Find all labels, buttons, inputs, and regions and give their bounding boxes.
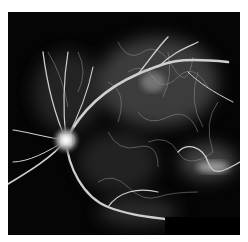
retina-vessels-graphic [8, 12, 240, 235]
corner-mask [165, 217, 240, 235]
fundus-angiogram-image [8, 12, 240, 235]
